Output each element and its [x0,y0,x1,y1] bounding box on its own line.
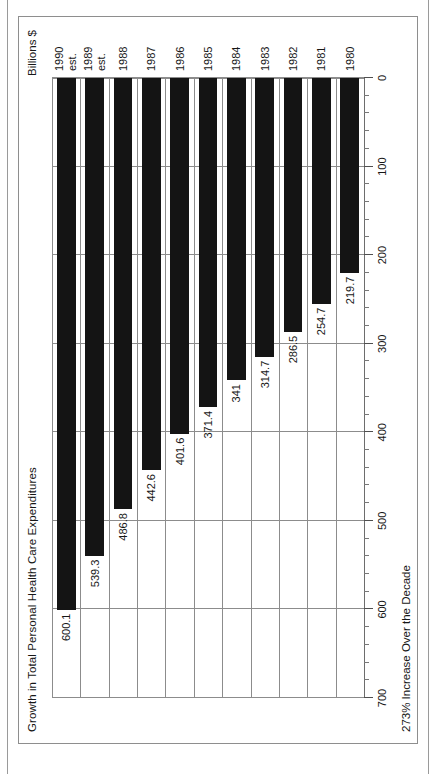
category-label: 1982 [287,47,300,71]
tick-major [364,608,373,609]
tick-minor [364,95,369,96]
category-label: 1989est. [82,47,108,71]
tick-minor [364,290,369,291]
tick-minor [364,538,369,539]
bar-row: 486.81988 [109,78,137,698]
value-axis-title: Billions $ [26,30,38,76]
tick-minor [364,591,369,592]
tick-minor [364,679,369,680]
bar [170,78,189,434]
tick-minor [364,130,369,131]
value-axis: 0100200300400500600700 [364,78,404,698]
bar-row: 3411984 [222,78,250,698]
bar-row: 286.51982 [279,78,307,698]
category-label: 1980 [343,47,356,71]
tick-major [364,520,373,521]
tick-label: 300 [376,335,388,353]
tick-minor [364,484,369,485]
tick-minor [364,662,369,663]
bar [85,78,104,556]
bar [312,78,331,304]
tick-major [364,166,373,167]
tick-minor [364,325,369,326]
bar [199,78,218,407]
tick-label: 100 [376,157,388,175]
page-rule-left [7,0,8,774]
bar-value-label: 442.6 [145,474,157,502]
value-axis-line [364,78,365,698]
bar-row: 371.41985 [194,78,222,698]
plot-area: 219.71980254.71981286.51982314.719833411… [52,78,364,698]
bar [57,78,76,610]
tick-major [364,343,373,344]
bar-series: 219.71980254.71981286.51982314.719833411… [52,78,364,698]
tick-label: 200 [376,246,388,264]
tick-minor [364,414,369,415]
tick-minor [364,307,369,308]
category-label: 1988 [116,47,129,71]
bar-value-label: 286.5 [287,336,299,364]
tick-minor [364,360,369,361]
bar-value-label: 539.3 [89,560,101,588]
tick-minor [364,236,369,237]
bar [114,78,133,509]
tick-minor [364,573,369,574]
tick-minor [364,148,369,149]
bar-row: 539.31989est. [80,78,108,698]
tick-label: 500 [376,512,388,530]
tick-major [364,431,373,432]
bar [284,78,303,332]
bar-value-label: 341 [230,384,242,402]
tick-minor [364,644,369,645]
bar-row: 314.71983 [251,78,279,698]
bar-value-label: 219.7 [344,277,356,305]
tick-minor [364,272,369,273]
tick-minor [364,112,369,113]
tick-label: 600 [376,600,388,618]
category-label: 1985 [202,47,215,71]
bar-value-label: 254.7 [315,308,327,336]
tick-major [364,77,373,78]
tick-minor [364,449,369,450]
bar-row: 254.71981 [307,78,335,698]
category-label: 1986 [173,47,186,71]
bar-value-label: 314.7 [259,361,271,389]
tick-major [364,254,373,255]
bar [340,78,359,273]
tick-minor [364,555,369,556]
tick-label: 700 [376,689,388,707]
tick-minor [364,378,369,379]
bar-row: 442.61987 [137,78,165,698]
tick-minor [364,201,369,202]
bar-chart: Growth in Total Personal Health Care Exp… [18,16,418,744]
bar-row: 401.61986 [165,78,193,698]
tick-minor [364,502,369,503]
bar-value-label: 600.1 [60,614,72,642]
category-label: 1981 [315,47,328,71]
category-label: 1987 [145,47,158,71]
tick-minor [364,626,369,627]
tick-label: 400 [376,423,388,441]
tick-label: 0 [376,75,388,81]
category-label: 1984 [230,47,243,71]
bar-value-label: 401.6 [174,438,186,466]
chart-title: Growth in Total Personal Health Care Exp… [26,467,38,732]
bar [227,78,246,380]
tick-minor [364,219,369,220]
bar-value-label: 486.8 [117,513,129,541]
bar-row: 600.11990est. [52,78,80,698]
bar-row: 219.71980 [336,78,364,698]
figure-rotation-wrapper: Growth in Total Personal Health Care Exp… [18,16,418,744]
tick-minor [364,396,369,397]
tick-minor [364,183,369,184]
tick-major [364,697,373,698]
bar [142,78,161,470]
tick-minor [364,467,369,468]
bar [255,78,274,357]
category-label: 1990est. [53,47,79,71]
page-rule-right [428,0,429,774]
bar-value-label: 371.4 [202,411,214,439]
category-label: 1983 [258,47,271,71]
